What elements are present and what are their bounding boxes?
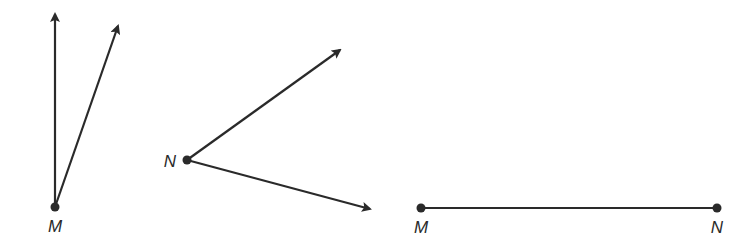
- vertex-point-m: [51, 203, 60, 212]
- label-m-segment: M: [414, 219, 428, 236]
- geometry-diagram: M N M N: [0, 0, 752, 244]
- vertex-point-n: [183, 156, 192, 165]
- label-n-segment: N: [711, 219, 723, 236]
- endpoint-n: [713, 204, 722, 213]
- segment-mn: [417, 204, 722, 213]
- ray-m-slanted: [55, 26, 118, 207]
- ray-n-upper: [187, 50, 340, 160]
- diagram-svg: [0, 0, 752, 244]
- label-m-angle: M: [48, 218, 62, 235]
- angle-at-n: [183, 50, 371, 209]
- label-n-angle: N: [164, 153, 176, 170]
- ray-n-lower: [187, 160, 370, 209]
- angle-at-m: [51, 14, 119, 212]
- endpoint-m: [417, 204, 426, 213]
